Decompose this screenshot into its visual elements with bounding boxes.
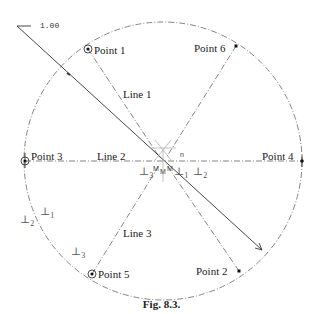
line-3-label: Line 3 — [123, 227, 151, 239]
point-1-label: Point 1 — [94, 44, 125, 56]
point-1-marker — [84, 45, 92, 53]
geometry-figure: Point 1 Point 2 Point 3 Point 4 Point 5 … — [0, 0, 323, 314]
center-mark-n: n — [180, 149, 184, 161]
center-mark-m1: M — [153, 163, 159, 175]
line-2-label: Line 2 — [97, 150, 125, 162]
perp-mark-3-arc: ⊥3 — [71, 245, 85, 262]
perp-mark-1-arc: ⊥1 — [40, 205, 54, 222]
point-4-marker — [300, 155, 304, 167]
line-6 — [166, 46, 236, 158]
scale-label: 1.00 — [40, 20, 59, 32]
point-3-marker — [21, 153, 29, 168]
line-1-label: Line 1 — [123, 88, 151, 100]
center-mark-m3: M — [167, 163, 173, 175]
perp-mark-2-arc: ⊥2 — [20, 213, 34, 230]
center-mark-m2: M — [160, 166, 166, 178]
figure-caption: Fig. 8.3. — [0, 298, 323, 310]
perp-mark-2-center: ⊥2 — [193, 165, 207, 182]
point-6-label: Point 6 — [194, 42, 225, 54]
point-2-label: Point 2 — [196, 265, 227, 277]
point-5-marker — [88, 270, 96, 278]
perp-mark-3-center: ⊥3 — [139, 165, 153, 182]
point-5-label: Point 5 — [98, 268, 129, 280]
line-1 — [88, 49, 160, 158]
point-6-marker — [235, 45, 238, 48]
perp-mark-1-center: ⊥1 — [174, 165, 188, 182]
point-4-label: Point 4 — [262, 150, 293, 162]
point-2-marker — [238, 270, 241, 273]
point-3-label: Point 3 — [31, 150, 62, 162]
